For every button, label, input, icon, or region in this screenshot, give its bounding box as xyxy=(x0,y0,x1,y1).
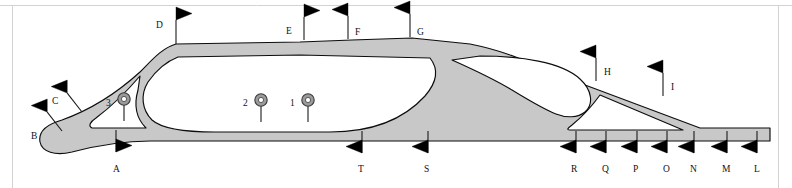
flag-pennant-left xyxy=(590,140,606,153)
flag-pennant-left xyxy=(31,99,47,112)
flag-pole xyxy=(67,93,82,112)
flag-pennant-left xyxy=(346,140,362,153)
body-outline-group xyxy=(40,38,770,154)
flag-label: I xyxy=(671,82,674,92)
flag-label: Q xyxy=(602,164,609,174)
flag-pennant-left xyxy=(621,140,637,153)
flag-label: H xyxy=(604,67,611,77)
flag-label: C xyxy=(52,96,58,106)
flag-label: L xyxy=(754,164,760,174)
body-hole-left xyxy=(143,55,435,132)
circle-marker-label: 3 xyxy=(106,98,111,108)
flag-c[interactable]: C xyxy=(51,80,82,112)
circle-marker-center xyxy=(121,96,126,101)
flag-label: G xyxy=(417,27,424,37)
flag-g[interactable]: G xyxy=(394,1,424,37)
flag-h[interactable]: H xyxy=(580,45,611,81)
flag-label: E xyxy=(286,26,292,36)
flag-label: A xyxy=(113,164,120,174)
flag-e[interactable]: E xyxy=(286,4,320,40)
flag-pennant-left xyxy=(394,1,410,14)
figure-container: ABCDEFGHILMNOPQRST 123 xyxy=(0,0,792,188)
flag-label: D xyxy=(156,20,163,30)
flag-label: R xyxy=(571,164,578,174)
flag-label: P xyxy=(633,164,638,174)
flag-label: M xyxy=(722,164,731,174)
flag-pennant-right xyxy=(176,7,192,20)
diagram-canvas: ABCDEFGHILMNOPQRST 123 xyxy=(0,0,792,188)
flag-label: T xyxy=(358,164,364,174)
flag-d[interactable]: D xyxy=(156,7,192,44)
flag-pennant-left xyxy=(412,140,428,153)
flag-i[interactable]: I xyxy=(647,60,674,96)
flag-f[interactable]: F xyxy=(332,3,360,39)
flag-pennant-left xyxy=(332,3,348,16)
circle-marker-center xyxy=(305,97,310,102)
flag-pennant-left xyxy=(651,140,667,153)
flag-pennant-left xyxy=(560,140,576,153)
flag-label: N xyxy=(690,164,697,174)
flag-pennant-left xyxy=(51,80,67,93)
flag-pennant-left xyxy=(678,140,694,153)
flag-label: F xyxy=(355,27,360,37)
flag-pennant-left xyxy=(647,60,663,73)
circle-marker-label: 2 xyxy=(243,98,248,108)
circle-marker-center xyxy=(258,97,263,102)
flag-pennant-left xyxy=(711,140,727,153)
circle-marker-label: 1 xyxy=(290,98,295,108)
flag-label: S xyxy=(424,164,429,174)
flag-label: B xyxy=(31,131,37,141)
flag-label: O xyxy=(663,164,670,174)
flag-pennant-left xyxy=(741,140,757,153)
flag-pennant-left xyxy=(580,45,596,58)
